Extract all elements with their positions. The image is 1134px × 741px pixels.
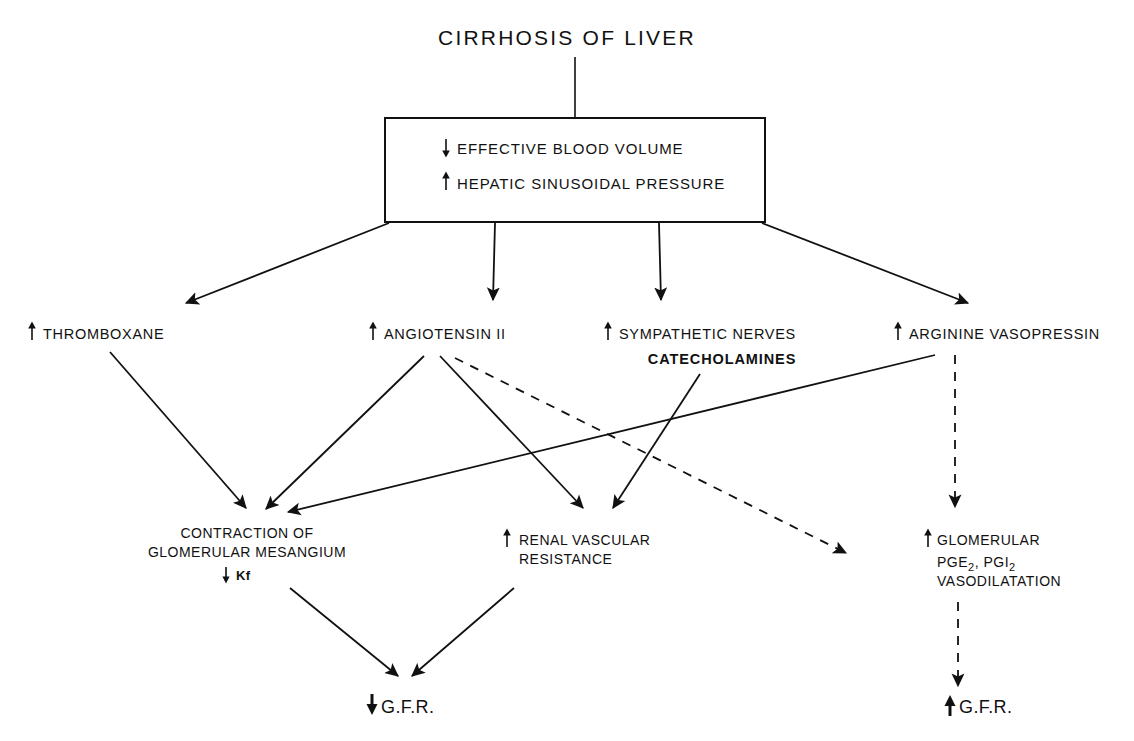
mediator-thromboxane-arrow-icon	[28, 322, 36, 341]
diagram-page: CIRRHOSIS OF LIVER EFFECTIVE BLOOD VOLUM…	[0, 0, 1134, 741]
pgi-subscript: 2	[1009, 561, 1016, 573]
root-box	[385, 118, 765, 222]
outcome-gfr-up-arrow-icon	[945, 695, 956, 716]
mediator-label-sympathetic: SYMPATHETIC NERVES	[619, 326, 796, 342]
edge-mesangium-to-gfr-down	[290, 588, 398, 676]
effect-mesangium-line1: CONTRACTION OF	[181, 525, 314, 541]
page-title: CIRRHOSIS OF LIVER	[438, 26, 696, 49]
mediator-angiotensin-arrow-icon	[369, 322, 377, 341]
edge-box-to-vasopressin	[762, 223, 968, 303]
edge-thromboxane-to-mesangium	[110, 352, 246, 508]
root-box-line2: HEPATIC SINUSOIDAL PRESSURE	[457, 175, 725, 192]
flowchart-canvas: CIRRHOSIS OF LIVER EFFECTIVE BLOOD VOLUM…	[0, 0, 1134, 741]
effect-resistance-line2: RESISTANCE	[519, 551, 612, 567]
effect-prostaglandin-line2: PGE2, PGI2	[937, 554, 1016, 573]
effect-mesangium-line3: Kf	[236, 568, 251, 583]
edge-angiotensin-to-mesangium	[266, 356, 424, 509]
mediator-label-vasopressin: ARGININE VASOPRESSIN	[909, 326, 1100, 342]
edge-sympathetic-to-resistance	[613, 374, 700, 508]
effect-prostaglandin-line1: GLOMERULAR	[937, 532, 1040, 548]
effect-mesangium-line2: GLOMERULAR MESANGIUM	[148, 544, 346, 560]
pge-label: PGE	[937, 554, 968, 570]
root-box-line1: EFFECTIVE BLOOD VOLUME	[457, 140, 684, 157]
edge-angiotensin-to-resistance	[440, 356, 583, 508]
outcome-label-gfr-down: G.F.R.	[381, 697, 434, 717]
pgi-label: , PGI	[975, 554, 1009, 570]
mediator-sublabel-catecholamines: CATECHOLAMINES	[648, 351, 796, 367]
edge-box-to-thromboxane	[186, 223, 389, 303]
edge-resistance-to-gfr-down	[412, 588, 514, 676]
edge-box-to-sympathetic	[659, 223, 661, 300]
pge-subscript: 2	[968, 561, 975, 573]
edge-vasopressin-to-mesangium	[288, 355, 935, 512]
mediator-vasopressin-arrow-icon	[894, 322, 902, 341]
effect-prostaglandin-line3: VASODILATATION	[937, 573, 1061, 589]
effect-mesangium-kf-arrow-icon	[222, 567, 229, 584]
outcome-label-gfr-up: G.F.R.	[959, 697, 1012, 717]
outcome-gfr-down-arrow-icon	[367, 694, 378, 715]
effect-resistance-line1: RENAL VASCULAR	[519, 532, 650, 548]
effect-resistance-arrow-icon	[503, 529, 511, 548]
mediator-sympathetic-arrow-icon	[604, 322, 612, 341]
edge-angiotensin-to-prostaglandin	[455, 358, 846, 553]
edge-box-to-angiotensin	[493, 223, 495, 300]
mediator-label-angiotensin: ANGIOTENSIN II	[384, 326, 506, 342]
effect-prostaglandin-arrow-icon	[924, 529, 932, 548]
mediator-label-thromboxane: THROMBOXANE	[43, 326, 164, 342]
